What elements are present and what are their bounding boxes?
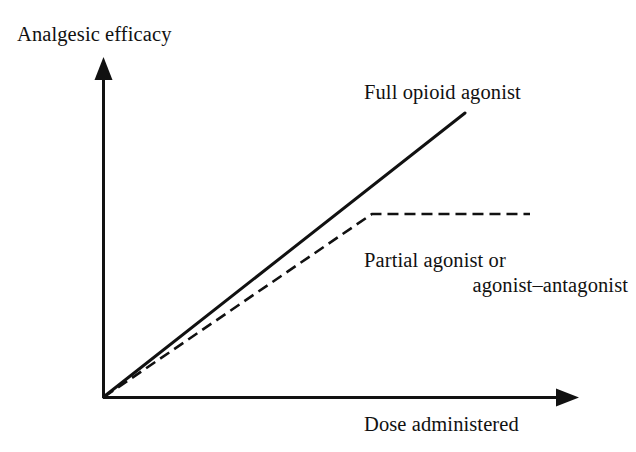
x-axis-label: Dose administered [364, 412, 519, 437]
y-axis-label: Analgesic efficacy [17, 22, 172, 47]
annotation-partial-agonist: Partial agonist or agonist–antagonist [364, 248, 628, 298]
x-axis-arrowhead-icon [556, 389, 579, 407]
series-line-partial-agonist [104, 214, 530, 397]
annotation-full-opioid-agonist: Full opioid agonist [364, 80, 521, 105]
annotation-partial-agonist-line-1: Partial agonist or [364, 248, 628, 273]
analgesic-efficacy-dose-response-figure: Analgesic efficacy Dose administered Ful… [0, 0, 636, 452]
annotation-partial-agonist-line-2: agonist–antagonist [364, 273, 628, 298]
y-axis-arrowhead-icon [95, 57, 113, 80]
plot-area [0, 0, 636, 452]
